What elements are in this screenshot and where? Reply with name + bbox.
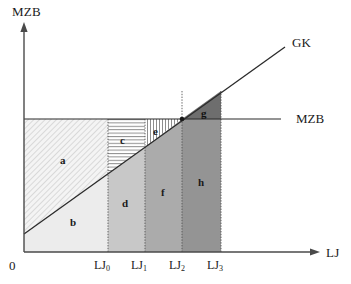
xtick-lj0-text: LJ	[94, 258, 106, 272]
xtick-lj1: LJ1	[131, 259, 147, 271]
xtick-lj0-sub: 0	[106, 264, 110, 273]
xtick-lj2: LJ2	[169, 259, 185, 271]
xtick-lj3: LJ3	[207, 259, 223, 271]
intersection-point	[180, 117, 185, 122]
region-label-a: a	[60, 155, 66, 166]
region-label-g: g	[201, 108, 207, 119]
origin-label: 0	[9, 259, 16, 272]
region-label-h: h	[198, 177, 204, 188]
xtick-lj3-sub: 3	[219, 264, 223, 273]
region-label-c: c	[120, 135, 125, 146]
xtick-lj1-sub: 1	[143, 264, 147, 273]
region-label-e: e	[153, 126, 158, 137]
xtick-lj3-text: LJ	[207, 258, 219, 272]
chart-canvas: MZB LJ 0 GK MZB LJ0 LJ1 LJ2 LJ3 a b c d …	[0, 0, 351, 284]
y-axis-title: MZB	[12, 5, 41, 18]
x-axis-title: LJ	[326, 246, 340, 259]
xtick-lj2-text: LJ	[169, 258, 181, 272]
xtick-lj0: LJ0	[94, 259, 110, 271]
region-label-f: f	[161, 187, 165, 198]
region-label-b: b	[70, 217, 76, 228]
xtick-lj2-sub: 2	[181, 264, 185, 273]
mzb-line-label: MZB	[296, 112, 324, 125]
region-label-d: d	[122, 198, 128, 209]
gk-curve-label: GK	[292, 36, 311, 49]
xtick-lj1-text: LJ	[131, 258, 143, 272]
